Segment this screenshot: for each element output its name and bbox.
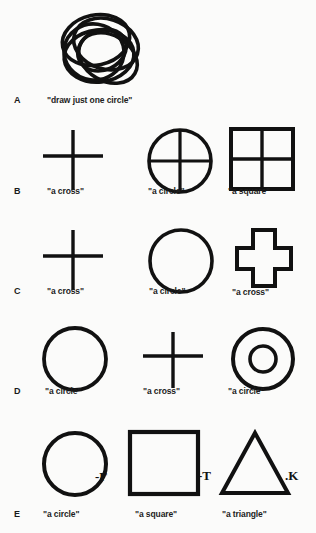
caption-b-3: "a square" xyxy=(228,186,270,196)
annotation-e-3: .K xyxy=(285,468,298,484)
caption-a-1: "draw just one circle" xyxy=(47,95,132,105)
shape-line-cross xyxy=(40,228,106,292)
figure-row-a: A "draw just one circle" xyxy=(0,0,316,110)
row-letter-e: E xyxy=(14,509,20,519)
shape-plus-outline xyxy=(233,226,295,290)
figure-row-e: -Γ -T .K E "a circle" "a square" "a tria… xyxy=(0,410,316,533)
caption-d-2: "a cross" xyxy=(143,386,180,396)
shape-concentric-circles xyxy=(228,324,298,394)
caption-b-2: "a circle" xyxy=(148,186,184,196)
shape-line-cross xyxy=(140,330,206,390)
shape-square-open xyxy=(127,429,201,497)
caption-c-1: "a cross" xyxy=(47,286,84,296)
annotation-e-2: -T xyxy=(198,468,211,484)
annotation-e-1: -Γ xyxy=(95,469,108,485)
figure-row-b: B "a cross" "a circle" "a square" xyxy=(0,110,316,210)
shape-square-quartered xyxy=(228,126,296,192)
caption-c-3: "a cross" xyxy=(232,287,269,297)
row-letter-b: B xyxy=(14,186,21,196)
caption-e-1: "a circle" xyxy=(43,509,79,519)
row-letter-a: A xyxy=(14,95,21,105)
shape-scribbled-overlapping-circles xyxy=(44,10,160,92)
caption-d-3: "a circle" xyxy=(228,386,264,396)
shape-circle-open xyxy=(40,428,112,500)
figure-panel: A "draw just one circle" xyxy=(0,0,316,533)
caption-e-2: "a square" xyxy=(135,509,177,519)
caption-b-1: "a cross" xyxy=(47,186,84,196)
figure-row-d: D "a circle" "a cross" "a circle" xyxy=(0,310,316,410)
caption-d-1: "a circle" xyxy=(45,386,81,396)
shape-triangle-open xyxy=(219,429,291,497)
caption-e-3: "a triangle" xyxy=(222,509,267,519)
shape-line-cross xyxy=(40,128,106,192)
row-letter-c: C xyxy=(14,286,21,296)
shape-circle-open xyxy=(40,324,110,394)
figure-row-c: C "a cross" "a circle" "a cross" xyxy=(0,210,316,310)
caption-c-2: "a circle" xyxy=(149,286,185,296)
row-letter-d: D xyxy=(14,386,21,396)
